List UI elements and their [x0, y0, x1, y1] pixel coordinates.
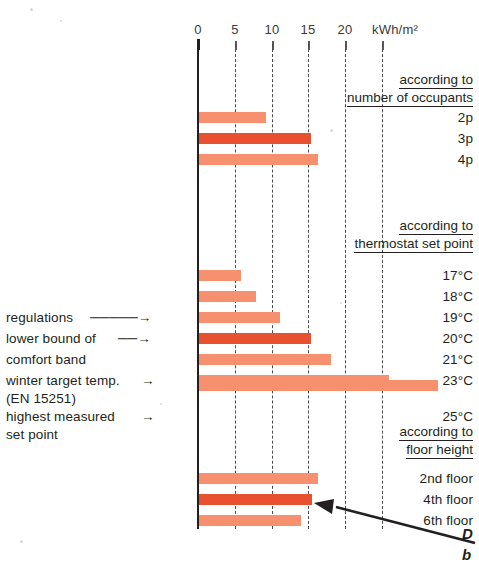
bar-6th-floor [199, 515, 301, 526]
annotation-set-point-text: set point [6, 427, 58, 442]
bar-label-25c: 25°C [287, 409, 479, 424]
bar-18c [199, 291, 256, 302]
bar-17c [199, 270, 241, 281]
scan-speck [160, 403, 162, 405]
chart-root: 0 5 10 15 20 kWh/m² according to number … [0, 0, 479, 565]
bar-label-18c: 18°C [287, 289, 479, 304]
bar-3p [199, 133, 311, 144]
bar-label-2p: 2p [287, 110, 479, 125]
group-heading-floor-line2-text: floor height [406, 442, 473, 459]
x-tick-label-0: 0 [194, 22, 201, 37]
annotation-winter-target-arrow: → [141, 373, 155, 388]
annotation-en-standard-text: (EN 15251) [6, 391, 76, 406]
annotation-regulations-arrow: ─────→ [90, 310, 151, 325]
group-heading-floor-line2: floor height [287, 442, 479, 457]
group-heading-floor-line1: according to [287, 424, 479, 439]
bar-4p [199, 154, 318, 165]
annotation-lower-bound-arrow: ──→ [118, 331, 151, 346]
callout-caption-line1: D [462, 524, 473, 544]
scan-speck [60, 20, 62, 22]
group-heading-occupants-line1: according to [287, 72, 479, 87]
annotation-regulations-text: regulations [6, 310, 73, 325]
x-tick-mark-0 [197, 39, 200, 50]
x-tick-label-5: 5 [231, 22, 238, 37]
bar-label-4th-floor: 4th floor [287, 492, 479, 507]
group-heading-occupants-line1-text: according to [399, 72, 473, 89]
group-heading-floor-line1-text: according to [399, 424, 473, 441]
bar-label-20c: 20°C [287, 331, 479, 346]
bar-label-3p: 3p [287, 131, 479, 146]
bar-20c [199, 333, 311, 344]
x-tick-label-20: 20 [338, 22, 353, 37]
bar-label-19c: 19°C [287, 310, 479, 325]
group-heading-occupants-line2: number of occupants [287, 90, 479, 105]
bar-21c [199, 354, 331, 365]
x-tick-label-10: 10 [265, 22, 280, 37]
bar-2nd-floor [199, 473, 318, 484]
annotation-highest-measured-arrow: → [141, 409, 155, 424]
gridline-10 [272, 44, 273, 529]
bar-label-17c: 17°C [287, 268, 479, 283]
scan-speck [20, 540, 23, 543]
group-heading-thermostat-line1-text: according to [399, 218, 473, 235]
group-heading-thermostat-line2: thermostat set point [287, 236, 479, 251]
annotation-comfort-band-text: comfort band [6, 352, 86, 367]
bar-2p [199, 112, 266, 123]
bar-25c [199, 380, 438, 391]
group-heading-thermostat-line1: according to [287, 218, 479, 233]
x-tick-label-15: 15 [301, 22, 316, 37]
annotation-lower-bound-text: lower bound of [6, 331, 96, 346]
group-heading-occupants-line2-text: number of occupants [347, 90, 473, 107]
x-axis-unit-label: kWh/m² [372, 22, 418, 37]
group-heading-thermostat-line2-text: thermostat set point [354, 236, 473, 253]
callout-caption-line2: b [462, 545, 471, 565]
annotation-winter-target-text: winter target temp. [6, 373, 120, 388]
scan-speck [30, 8, 33, 11]
bar-4th-floor [199, 494, 312, 505]
annotation-highest-measured-text: highest measured [6, 409, 115, 424]
bar-19c [199, 312, 280, 323]
bar-label-6th-floor: 6th floor [287, 513, 479, 528]
